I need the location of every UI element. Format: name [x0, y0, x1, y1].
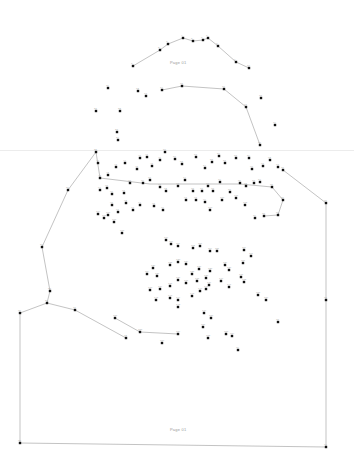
dot-number: 147	[204, 285, 209, 288]
dot-marker	[282, 199, 284, 201]
dot-number: 159	[176, 330, 181, 333]
dot-number: 15	[180, 82, 183, 85]
dot-marker	[151, 165, 153, 167]
dot-number: 140	[219, 277, 224, 280]
dot-marker	[124, 162, 126, 164]
dot-number: 50	[163, 148, 166, 151]
dot-number: 108	[120, 229, 125, 232]
dot-number: 143	[168, 294, 173, 297]
dot-marker	[224, 162, 226, 164]
dot-number: 55	[210, 158, 213, 161]
dot-marker	[231, 335, 233, 337]
dot-marker	[259, 144, 261, 146]
dot-number: 24	[116, 136, 119, 139]
dot-marker	[67, 189, 69, 191]
dot-number: 155	[256, 291, 261, 294]
dot-number: 157	[113, 314, 118, 317]
dot-number: 107	[112, 218, 117, 221]
dot-marker	[203, 312, 205, 314]
dot-marker	[46, 302, 48, 304]
dot-number: 59	[247, 154, 250, 157]
dot-marker	[195, 199, 197, 201]
dot-number: 106	[106, 211, 111, 214]
dot-marker	[185, 199, 187, 201]
dot-marker	[257, 294, 259, 296]
dot-marker	[274, 124, 276, 126]
dot-marker	[204, 167, 206, 169]
dot-marker	[121, 232, 123, 234]
dot-marker	[185, 282, 187, 284]
dot-number: 22	[118, 107, 121, 110]
dot-number: 72	[164, 187, 167, 190]
dot-number: 43	[114, 163, 117, 166]
dot-number: 129	[223, 261, 228, 264]
dot-marker	[243, 281, 245, 283]
dot-marker	[260, 97, 262, 99]
dot-number: 132	[242, 278, 247, 281]
dot-number: 127	[204, 274, 209, 277]
dot-marker	[170, 243, 172, 245]
dot-number: 121	[155, 272, 160, 275]
dot-number: 85	[270, 183, 273, 186]
dot-marker	[277, 321, 279, 323]
dot-number: 79	[218, 178, 221, 181]
dot-number: 26	[66, 186, 69, 189]
dot-number: 136	[176, 276, 181, 279]
dot-number: 47	[145, 153, 148, 156]
dot-marker	[181, 163, 183, 165]
dot-marker	[111, 204, 113, 206]
dot-number: 122	[168, 261, 173, 264]
dot-number: 18	[259, 94, 262, 97]
dot-to-dot-page: 1234567891011121314151617181920212223242…	[0, 0, 354, 464]
dot-marker	[177, 245, 179, 247]
dot-number: 57	[223, 159, 226, 162]
dot-marker	[198, 268, 200, 270]
dot-number: 154	[230, 332, 235, 335]
dot-marker	[325, 202, 327, 204]
dot-number: 49	[158, 156, 161, 159]
dot-marker	[41, 246, 43, 248]
dot-marker	[195, 156, 197, 158]
dot-marker	[245, 106, 247, 108]
dot-marker	[74, 309, 76, 311]
dot-number: 156	[264, 296, 269, 299]
dot-number: 30	[18, 309, 21, 312]
dot-marker	[262, 165, 264, 167]
dot-marker	[114, 317, 116, 319]
dot-number: 5	[191, 37, 193, 40]
dot-number: 14	[160, 86, 163, 89]
dot-number: 126	[197, 265, 202, 268]
dot-marker	[177, 261, 179, 263]
dot-number: 7	[206, 34, 208, 37]
dot-number: 83	[252, 179, 255, 182]
dot-marker	[99, 189, 101, 191]
dot-marker	[265, 299, 267, 301]
dot-marker	[132, 65, 134, 67]
dot-marker	[139, 204, 141, 206]
dot-number: 56	[217, 152, 220, 155]
dot-marker	[159, 159, 161, 161]
dot-number: 103	[208, 206, 213, 209]
dot-number: 28	[48, 287, 51, 290]
dot-number: 119	[145, 270, 150, 273]
dot-marker	[263, 215, 265, 217]
dot-number: 34	[324, 443, 327, 446]
dot-marker	[103, 217, 105, 219]
dot-number: 65	[105, 184, 108, 187]
dot-marker	[212, 190, 214, 192]
dot-number: 149	[202, 309, 207, 312]
dot-number: 76	[200, 187, 203, 190]
dot-number: 63	[276, 163, 279, 166]
connecting-line	[115, 318, 178, 334]
dot-number: 16	[222, 85, 225, 88]
dot-marker	[235, 197, 237, 199]
dot-marker	[174, 158, 176, 160]
dot-marker	[123, 192, 125, 194]
dot-number: 54	[203, 164, 206, 167]
dot-number: 137	[184, 279, 189, 282]
dot-number: 64	[98, 186, 101, 189]
dot-marker	[199, 290, 201, 292]
dot-number: 116	[242, 246, 247, 249]
dot-marker	[192, 247, 194, 249]
dot-number: 62	[268, 156, 271, 159]
